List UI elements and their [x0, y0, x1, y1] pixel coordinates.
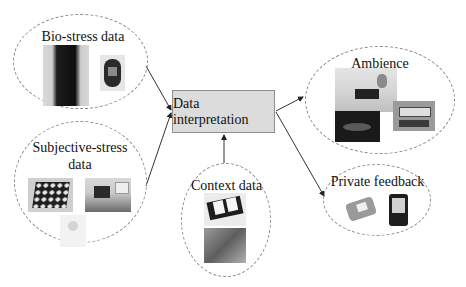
edge-subjective-to-interpretation [146, 113, 171, 186]
mobile-phone-image [389, 194, 408, 226]
handheld-device-image [60, 215, 86, 247]
pda-device-image [204, 193, 246, 226]
ambient-lamp-image [335, 111, 380, 142]
body-sensor-vest-image [43, 45, 89, 106]
private-feedback-label: Private feedback [330, 175, 425, 190]
wrist-display-device-image [345, 196, 378, 221]
circuit-board-image [204, 228, 246, 263]
diagram-canvas: Bio-stress data Subjective-stress data D… [0, 0, 466, 287]
subjective-stress-label-line1: Subjective-stress [30, 141, 130, 156]
button-panel-device-image [28, 178, 73, 212]
bio-stress-label: Bio-stress data [38, 30, 128, 45]
data-interpretation-label: Data interpretation [173, 96, 274, 128]
context-data-label: Context data [191, 179, 261, 194]
edge-interpretation-to-ambience [276, 97, 303, 111]
data-interpretation-node: Data interpretation [172, 90, 275, 133]
edge-bio-to-interpretation [146, 66, 171, 110]
display-clock-image [393, 101, 435, 131]
subjective-stress-label-line2: data [30, 158, 130, 173]
wrist-watch-sensor-image [100, 55, 125, 91]
desk-device-image [85, 178, 131, 212]
living-room-scene-image [335, 68, 397, 112]
